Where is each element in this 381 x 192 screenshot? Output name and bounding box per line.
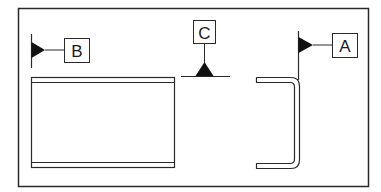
callout-b-label: B xyxy=(71,42,82,61)
callout-c-label: C xyxy=(198,24,210,43)
callout-a-weld-triangle-icon xyxy=(299,37,314,53)
plate-front-view xyxy=(32,78,175,168)
callout-a-label: A xyxy=(339,37,351,56)
callout-a: A xyxy=(299,31,358,80)
channel-section xyxy=(257,78,300,169)
callout-c-weld-triangle-icon xyxy=(196,62,214,76)
callout-c: C xyxy=(181,21,230,77)
plate-outline xyxy=(32,78,175,168)
callout-b: B xyxy=(32,34,90,68)
callout-b-weld-triangle-icon xyxy=(32,42,46,58)
channel-outer-contour xyxy=(257,78,300,169)
diagram-svg: B C A xyxy=(0,0,381,192)
diagram-canvas: B C A xyxy=(0,0,381,192)
